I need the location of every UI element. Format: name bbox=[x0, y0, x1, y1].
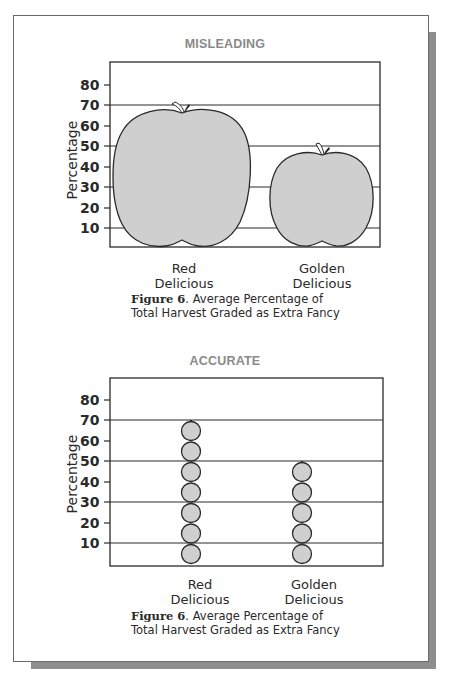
y-tick-label: 30 bbox=[80, 494, 99, 510]
accurate-gridlines bbox=[110, 420, 383, 543]
y-tick-label: 50 bbox=[80, 453, 99, 469]
accurate-y-ticks bbox=[104, 400, 110, 543]
category-line: Delicious bbox=[140, 592, 260, 607]
accurate-y-axis-title: Percentage bbox=[64, 424, 80, 524]
accurate-x-label-golden: Golden Delicious bbox=[254, 577, 374, 607]
category-line: Golden bbox=[254, 577, 374, 592]
y-tick-label: 40 bbox=[80, 474, 99, 490]
golden-delicious-apple-stack bbox=[293, 461, 312, 564]
accurate-x-label-red: Red Delicious bbox=[140, 577, 260, 607]
caption-text: Total Harvest Graded as Extra Fancy bbox=[131, 623, 340, 637]
red-delicious-apple-stack bbox=[182, 420, 201, 564]
accurate-caption: Figure 6. Average Percentage of Total Ha… bbox=[131, 609, 340, 637]
y-tick-label: 10 bbox=[80, 535, 99, 551]
caption-figure-number: Figure 6 bbox=[131, 609, 185, 623]
y-tick-label: 70 bbox=[80, 412, 99, 428]
accurate-plot-frame bbox=[110, 378, 383, 566]
y-tick-label: 80 bbox=[80, 392, 99, 408]
category-line: Red bbox=[140, 577, 260, 592]
category-line: Delicious bbox=[254, 592, 374, 607]
y-tick-label: 60 bbox=[80, 433, 99, 449]
y-tick-label: 20 bbox=[80, 515, 99, 531]
caption-text: . Average Percentage of bbox=[185, 609, 323, 623]
